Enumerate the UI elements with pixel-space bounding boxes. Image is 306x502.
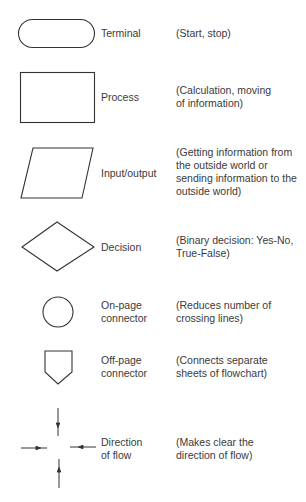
label-line: connector	[101, 312, 147, 325]
label-line: Process	[101, 91, 139, 104]
off-page-connector-description: (Connects separate sheets of flowchart)	[176, 354, 268, 380]
on-page-connector-label: On-page connector	[101, 299, 147, 325]
on-page-connector-symbol-icon	[43, 297, 73, 327]
direction-of-flow-label: Direction of flow	[101, 436, 142, 462]
description-line: (Start, stop)	[176, 27, 231, 40]
description-line: True-False)	[176, 247, 293, 260]
process-description: (Calculation, moving of information)	[176, 84, 271, 110]
decision-symbol-icon	[22, 222, 94, 271]
label-line: of flow	[101, 449, 142, 462]
description-line: (Reduces number of	[176, 299, 271, 312]
description-line: direction of flow)	[176, 449, 254, 462]
input-output-description: (Getting information from the outside wo…	[176, 146, 297, 198]
process-label: Process	[101, 91, 139, 104]
description-line: (Binary decision: Yes-No,	[176, 234, 293, 247]
terminal-label: Terminal	[101, 27, 141, 40]
input-output-label: Input/output	[101, 167, 156, 180]
label-line: On-page	[101, 299, 147, 312]
process-symbol-icon	[21, 73, 95, 123]
label-line: Off-page	[101, 354, 147, 367]
description-line: (Connects separate	[176, 354, 268, 367]
description-line: sheets of flowchart)	[176, 367, 268, 380]
decision-label: Decision	[101, 241, 141, 254]
description-line: (Getting information from	[176, 146, 297, 159]
off-page-connector-symbol-icon	[45, 351, 72, 384]
description-line: the outside world or	[176, 159, 297, 172]
description-line: of information)	[176, 97, 271, 110]
decision-description: (Binary decision: Yes-No, True-False)	[176, 234, 293, 260]
direction-of-flow-description: (Makes clear the direction of flow)	[176, 436, 254, 462]
on-page-connector-description: (Reduces number of crossing lines)	[176, 299, 271, 325]
description-line: (Makes clear the	[176, 436, 254, 449]
description-line: crossing lines)	[176, 312, 271, 325]
description-line: outside world)	[176, 185, 297, 198]
label-line: Direction	[101, 436, 142, 449]
terminal-description: (Start, stop)	[176, 27, 231, 40]
terminal-symbol-icon	[19, 20, 95, 48]
description-line: (Calculation, moving	[176, 84, 271, 97]
off-page-connector-label: Off-page connector	[101, 354, 147, 380]
label-line: Terminal	[101, 27, 141, 40]
label-line: connector	[101, 367, 147, 380]
label-line: Input/output	[101, 167, 156, 180]
description-line: sending information to the	[176, 172, 297, 185]
direction-of-flow-symbol-icon	[21, 408, 96, 488]
input-output-symbol-icon	[21, 148, 93, 198]
label-line: Decision	[101, 241, 141, 254]
